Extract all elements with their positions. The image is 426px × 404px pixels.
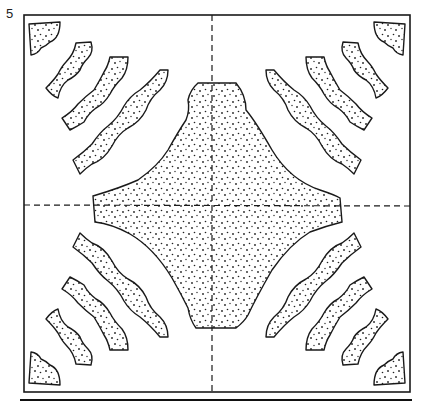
top-right-bands [266,22,405,174]
horizontal-center-line [24,205,410,206]
bottom-right-bands [266,233,405,385]
bottom-left-bands [29,233,168,385]
top-left-bands [29,22,168,174]
quilt-pattern-diagram [0,0,426,404]
